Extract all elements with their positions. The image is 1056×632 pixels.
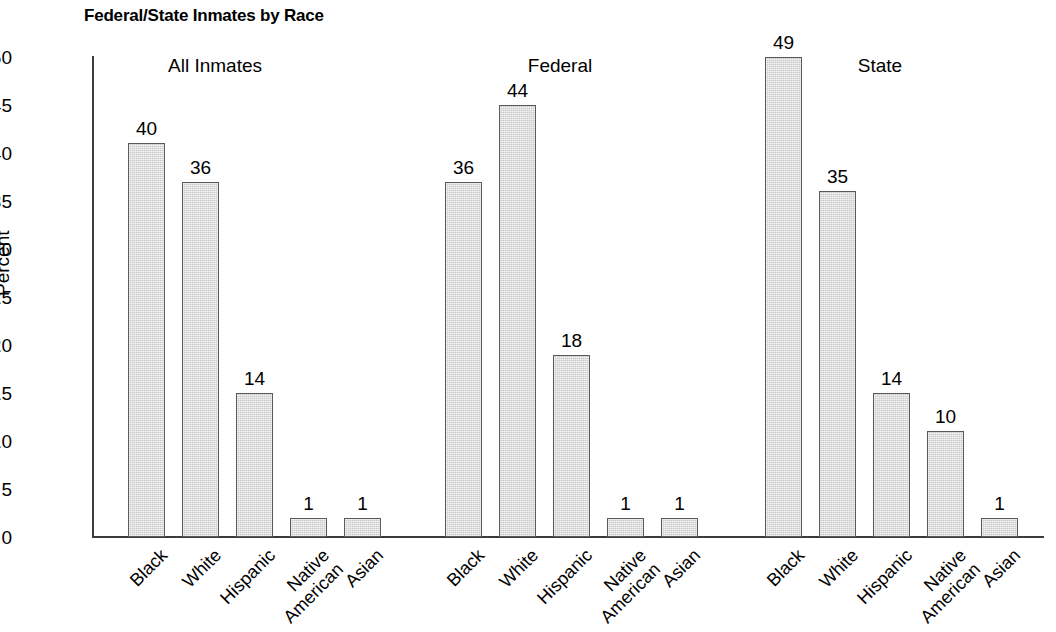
- bar-value-label: 36: [190, 158, 211, 177]
- bar: [661, 518, 698, 537]
- bar: [819, 191, 856, 537]
- bar: [344, 518, 381, 537]
- bar: [765, 57, 802, 537]
- chart-title: Federal/State Inmates by Race: [84, 6, 324, 26]
- bar: [290, 518, 327, 537]
- bar-value-label: 14: [881, 369, 902, 388]
- category-label-line1: Black: [762, 545, 807, 590]
- y-tick-label: 30: [0, 240, 12, 259]
- category-label-line1: Asian: [341, 545, 387, 591]
- bar: [499, 105, 536, 537]
- group-header: Federal: [528, 55, 592, 77]
- category-label-line1: Black: [442, 545, 487, 590]
- y-tick-label: 15: [0, 384, 12, 403]
- bar-value-label: 1: [620, 494, 631, 513]
- chart-figure: Federal/State Inmates by Race Percent 50…: [0, 0, 1056, 632]
- group-header: All Inmates: [168, 55, 262, 77]
- category-label-line1: White: [178, 545, 225, 592]
- y-tick-label: 25: [0, 288, 12, 307]
- bar-value-label: 49: [773, 33, 794, 52]
- category-label-line1: Asian: [658, 545, 704, 591]
- y-tick-label: 35: [0, 192, 12, 211]
- bar-value-label: 10: [935, 407, 956, 426]
- bar-value-label: 14: [244, 369, 265, 388]
- bar: [553, 355, 590, 537]
- bar: [981, 518, 1018, 537]
- bar-value-label: 1: [994, 494, 1005, 513]
- category-label-line1: White: [495, 545, 542, 592]
- y-tick-label: 5: [0, 480, 12, 499]
- bar-value-label: 1: [357, 494, 368, 513]
- bar: [927, 431, 964, 537]
- category-label-line1: Asian: [978, 545, 1024, 591]
- bar-value-label: 36: [453, 158, 474, 177]
- bar-value-label: 1: [303, 494, 314, 513]
- bar: [182, 182, 219, 537]
- y-tick-label: 45: [0, 96, 12, 115]
- bar: [128, 143, 165, 537]
- bar-value-label: 44: [507, 81, 528, 100]
- y-tick-label: 0: [0, 528, 12, 547]
- bar-value-label: 35: [827, 167, 848, 186]
- bar: [607, 518, 644, 537]
- category-label-line1: White: [815, 545, 862, 592]
- bar-value-label: 40: [136, 119, 157, 138]
- bar-value-label: 18: [561, 331, 582, 350]
- bar: [236, 393, 273, 537]
- y-tick-label: 50: [0, 48, 12, 67]
- group-header: State: [858, 55, 902, 77]
- y-tick-label: 40: [0, 144, 12, 163]
- bar-value-label: 1: [674, 494, 685, 513]
- bar: [445, 182, 482, 537]
- y-tick-label: 10: [0, 432, 12, 451]
- y-tick-label: 20: [0, 336, 12, 355]
- bar: [873, 393, 910, 537]
- category-label-line1: Black: [125, 545, 170, 590]
- y-axis-line: [92, 56, 94, 538]
